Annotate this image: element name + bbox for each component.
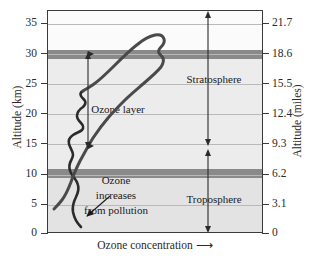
troposphere-arrowhead-top: [205, 149, 211, 156]
ozone-altitude-chart: Stratosphere Troposphere Ozone layer Ozo…: [0, 0, 311, 262]
stratosphere-arrowhead-top: [205, 11, 211, 18]
ozone-layer-arrowhead-top: [85, 52, 91, 59]
ozone-profile-curve: [54, 35, 164, 227]
troposphere-arrowhead-bottom: [205, 226, 211, 233]
pollution-callout-arrow: [87, 196, 110, 216]
chart-overlay: [0, 0, 311, 262]
stratosphere-arrowhead-bottom: [205, 139, 211, 146]
